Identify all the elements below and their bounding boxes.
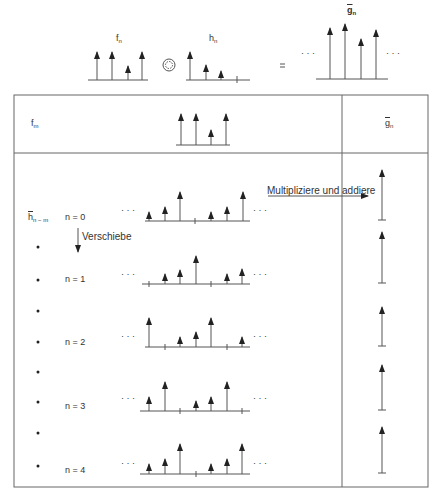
row-label-n2: n = 2	[65, 337, 85, 347]
multiply-label: Multipliziere und addiere	[267, 185, 375, 196]
h-n-minus-m-label: hn − m	[28, 212, 48, 223]
top-left-ellipsis: · · ·	[301, 48, 315, 58]
g-n-sequence	[316, 24, 388, 79]
row4-right-ellipsis: · · ·	[253, 458, 267, 468]
f-m-label: fm	[31, 118, 39, 129]
h-shift-row-2	[145, 318, 250, 350]
vertical-ellipsis-dots	[37, 246, 40, 468]
row-label-n0: n = 0	[65, 212, 85, 222]
convolution-operator-icon	[163, 59, 175, 71]
row1-left-ellipsis: · · ·	[121, 269, 135, 279]
f-n-label: fn	[116, 33, 122, 44]
h-shift-row-3	[140, 382, 250, 414]
row0-right-ellipsis: · · ·	[253, 205, 267, 215]
diagram-canvas	[0, 0, 438, 499]
f-n-sequence	[88, 52, 148, 80]
row-label-n4: n = 4	[65, 465, 85, 475]
top-right-ellipsis: · · ·	[386, 48, 400, 58]
row-label-n3: n = 3	[65, 401, 85, 411]
row0-left-ellipsis: · · ·	[121, 205, 135, 215]
h-shift-row-4	[140, 444, 250, 477]
row3-right-ellipsis: · · ·	[253, 393, 267, 403]
row3-left-ellipsis: · · ·	[121, 393, 135, 403]
row-label-n1: n = 1	[65, 274, 85, 284]
table-frame	[14, 95, 428, 487]
h-shift-row-1	[142, 256, 250, 287]
h-n-sequence	[186, 52, 250, 83]
g-n-label: gn	[347, 5, 356, 16]
f-m-sequence	[176, 114, 230, 145]
g-result-column	[378, 170, 386, 473]
row1-right-ellipsis: · · ·	[253, 269, 267, 279]
shift-label: Verschiebe	[82, 231, 131, 242]
h-shift-row-0	[145, 192, 250, 224]
row4-left-ellipsis: · · ·	[121, 458, 135, 468]
row2-left-ellipsis: · · ·	[121, 331, 135, 341]
row2-right-ellipsis: · · ·	[253, 331, 267, 341]
g-n-header-label: gn	[385, 118, 393, 129]
h-n-label: hn	[209, 33, 217, 44]
